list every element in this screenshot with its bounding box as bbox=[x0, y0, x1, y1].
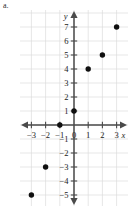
data-point bbox=[29, 192, 34, 197]
scatter-plot: −3−2−10123−5−4−3−2−11234567 yx bbox=[20, 10, 128, 206]
x-axis-arrow-left bbox=[21, 121, 28, 128]
y-axis-arrow-down bbox=[70, 198, 77, 205]
x-axis-arrow-right bbox=[120, 121, 127, 128]
y-tick-label: −4 bbox=[59, 176, 69, 186]
data-point bbox=[43, 164, 48, 169]
data-point bbox=[114, 24, 119, 29]
y-axis-arrow-up bbox=[70, 11, 77, 18]
figure-container: a. −3−2−10123−5−4−3−2−11234567 yx bbox=[0, 0, 132, 210]
plot-svg: −3−2−10123−5−4−3−2−11234567 yx bbox=[20, 10, 128, 206]
x-tick-label: 2 bbox=[100, 130, 104, 140]
y-tick-label: 6 bbox=[64, 36, 68, 46]
axes-group bbox=[21, 11, 127, 205]
y-tick-label: 5 bbox=[64, 50, 68, 60]
x-tick-label: 0 bbox=[72, 130, 76, 140]
y-tick-label: 7 bbox=[64, 22, 68, 32]
y-axis-label: y bbox=[63, 11, 68, 21]
y-tick-label: 3 bbox=[64, 78, 68, 88]
data-point bbox=[86, 66, 91, 71]
x-axis-label: x bbox=[121, 130, 126, 140]
x-tick-label: 3 bbox=[114, 130, 118, 140]
data-point bbox=[57, 122, 62, 127]
part-label: a. bbox=[3, 1, 9, 11]
axis-names-group: yx bbox=[63, 11, 126, 140]
x-tick-label: 1 bbox=[86, 130, 90, 140]
y-tick-label: −1 bbox=[59, 134, 68, 144]
y-tick-label: −2 bbox=[59, 148, 68, 158]
x-tick-label: −3 bbox=[27, 130, 36, 140]
y-tick-label: −5 bbox=[59, 190, 68, 200]
y-tick-label: −3 bbox=[59, 162, 68, 172]
y-tick-label: 2 bbox=[64, 92, 68, 102]
data-point bbox=[100, 52, 105, 57]
y-tick-label: 1 bbox=[64, 106, 68, 116]
x-tick-label: −2 bbox=[41, 130, 50, 140]
data-point bbox=[71, 108, 76, 113]
